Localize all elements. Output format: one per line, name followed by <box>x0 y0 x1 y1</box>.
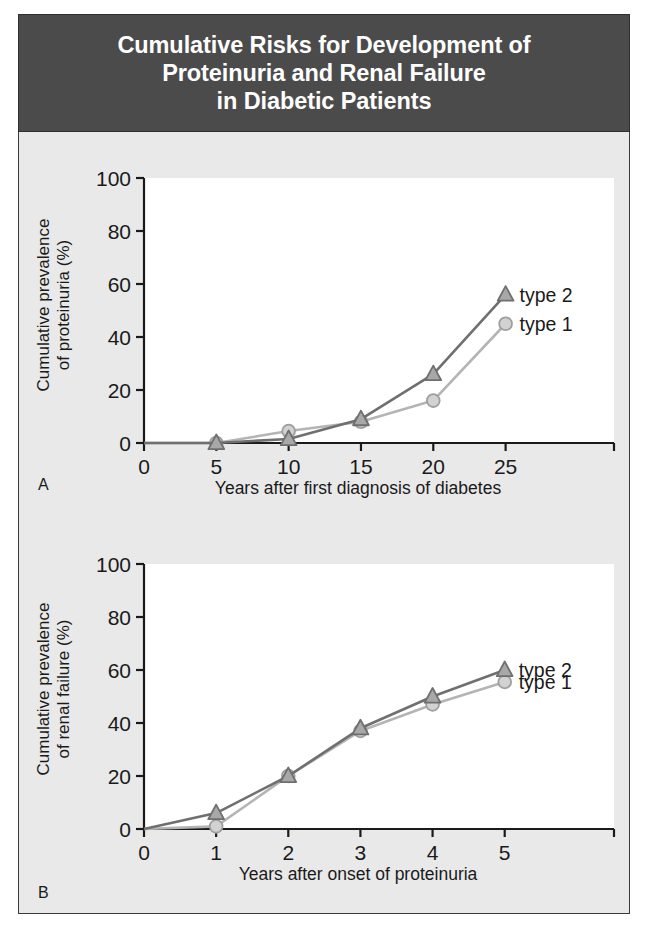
x-axis-tick-label: 10 <box>277 455 300 478</box>
x-axis-tick-label: 15 <box>349 455 372 478</box>
y-axis-tick-label: 60 <box>108 659 131 682</box>
data-point-circle <box>499 317 512 330</box>
y-axis-tick-label: 20 <box>108 765 131 788</box>
chart-b-y-axis-label: Cumulative prevalence of renal failure (… <box>34 554 74 824</box>
y-axis-tick-label: 0 <box>119 432 131 455</box>
figure-title-line-1: Cumulative Risks for Development of <box>117 31 530 59</box>
chart-b-y-axis-label-line1: Cumulative prevalence <box>34 603 53 776</box>
x-axis-tick-label: 0 <box>138 841 150 864</box>
chart-a-x-axis-label: Years after first diagnosis of diabetes <box>138 478 578 499</box>
y-axis-tick-label: 60 <box>108 273 131 296</box>
y-axis-tick-label: 100 <box>96 167 131 190</box>
x-axis-tick-label: 4 <box>427 841 439 864</box>
chart-a-plot: 0204060801000510152025type 2type 1 <box>20 134 628 494</box>
legend-label-type-1: type 1 <box>520 313 573 335</box>
legend-label-type-2: type 2 <box>520 284 573 306</box>
y-axis-tick-label: 0 <box>119 818 131 841</box>
chart-b-x-axis-label: Years after onset of proteinuria <box>138 864 578 885</box>
y-axis-tick-label: 80 <box>108 606 131 629</box>
figure-title-line-3: in Diabetic Patients <box>217 87 432 115</box>
x-axis-tick-label: 3 <box>355 841 367 864</box>
x-axis-tick-label: 5 <box>210 455 222 478</box>
x-axis-tick-label: 0 <box>138 455 150 478</box>
y-axis-tick-label: 20 <box>108 379 131 402</box>
y-axis-tick-label: 80 <box>108 220 131 243</box>
chart-a-y-axis-label-line1: Cumulative prevalence <box>34 219 53 392</box>
legend-label-type-1: type 1 <box>519 671 572 693</box>
x-axis-tick-label: 2 <box>282 841 294 864</box>
chart-panel-b: Cumulative prevalence of renal failure (… <box>20 516 628 912</box>
x-axis-tick-label: 1 <box>210 841 222 864</box>
chart-b-panel-letter: B <box>38 884 49 902</box>
figure-container: Cumulative Risks for Development of Prot… <box>0 0 650 932</box>
chart-a-panel-letter: A <box>38 476 49 494</box>
y-axis-tick-label: 40 <box>108 326 131 349</box>
plot-background <box>144 564 614 829</box>
y-axis-tick-label: 40 <box>108 712 131 735</box>
chart-b-y-axis-label-line2: of renal failure (%) <box>54 554 74 824</box>
x-axis-tick-label: 20 <box>422 455 445 478</box>
x-axis-tick-label: 5 <box>499 841 511 864</box>
x-axis-tick-label: 25 <box>494 455 517 478</box>
y-axis-tick-label: 100 <box>96 553 131 576</box>
figure-title-line-2: Proteinuria and Renal Failure <box>162 59 486 87</box>
chart-a-y-axis-label-line2: of proteinuria (%) <box>54 180 74 430</box>
chart-b-plot: 020406080100012345type 2type 1 <box>20 516 628 882</box>
data-point-circle <box>498 676 511 689</box>
chart-panel-a: Cumulative prevalence of proteinuria (%)… <box>20 134 628 494</box>
figure-title-banner: Cumulative Risks for Development of Prot… <box>18 14 630 132</box>
data-point-circle <box>427 394 440 407</box>
plot-background <box>144 178 614 443</box>
data-point-circle <box>210 820 223 833</box>
chart-a-y-axis-label: Cumulative prevalence of proteinuria (%) <box>34 180 74 430</box>
